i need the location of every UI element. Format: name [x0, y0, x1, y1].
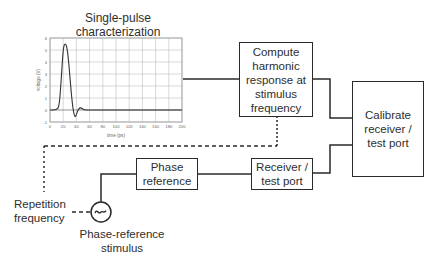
- receiver-to-calibrate-wire: [313, 145, 352, 173]
- pulse-chart: 020406080100120140160180200 -10123456 ti…: [36, 36, 186, 139]
- compute-line1: Compute: [246, 45, 306, 59]
- compute-harmonic-box: Compute harmonic response at stimulus fr…: [239, 42, 313, 117]
- chart-title: Single-pulse characterization: [52, 11, 184, 39]
- compute-line4: stimulus: [246, 87, 306, 101]
- y-axis-label: voltage (V): [36, 68, 41, 91]
- calibrate-line3: test port: [364, 136, 411, 150]
- svg-text:4: 4: [45, 60, 48, 65]
- svg-text:0: 0: [49, 124, 52, 129]
- phase-line2: reference: [143, 174, 192, 188]
- svg-text:140: 140: [139, 124, 147, 129]
- y-tick-labels: -10123456: [43, 36, 47, 125]
- receiver-line1: Receiver /: [256, 160, 308, 174]
- calibrate-line2: receiver /: [364, 122, 411, 136]
- stimulus-line1: Phase-reference: [72, 228, 172, 242]
- svg-text:60: 60: [87, 124, 92, 129]
- compute-line3: response at: [246, 73, 306, 87]
- svg-text:3: 3: [45, 72, 48, 77]
- svg-text:1: 1: [45, 96, 48, 101]
- ac-source-icon: [91, 202, 111, 222]
- repetition-line1: Repetition: [14, 198, 72, 212]
- compute-line2: harmonic: [246, 59, 306, 73]
- phase-reference-stimulus-label: Phase-reference stimulus: [72, 228, 172, 255]
- x-tick-labels: 020406080100120140160180200: [49, 124, 186, 129]
- compute-line5: frequency: [246, 101, 306, 115]
- receiver-test-port-box: Receiver / test port: [251, 158, 313, 190]
- calibrate-line1: Calibrate: [364, 108, 411, 122]
- svg-text:-1: -1: [43, 120, 47, 125]
- x-axis-label: time (ps): [107, 133, 125, 138]
- chart-title-line1: Single-pulse: [52, 11, 184, 25]
- receiver-line2: test port: [256, 174, 308, 188]
- compute-to-calibrate-wire: [313, 79, 352, 118]
- svg-text:200: 200: [179, 124, 187, 129]
- stimulus-line2: stimulus: [72, 242, 172, 256]
- svg-text:80: 80: [100, 124, 105, 129]
- svg-text:20: 20: [61, 124, 66, 129]
- phase-line1: Phase: [143, 160, 192, 174]
- source-to-phase-wire: [101, 174, 136, 202]
- calibrate-box: Calibrate receiver / test port: [352, 81, 424, 177]
- svg-text:0: 0: [45, 108, 48, 113]
- svg-text:160: 160: [152, 124, 160, 129]
- svg-text:2: 2: [45, 84, 48, 89]
- svg-text:40: 40: [74, 124, 79, 129]
- svg-text:180: 180: [165, 124, 173, 129]
- svg-text:6: 6: [45, 36, 48, 41]
- repetition-frequency-label: Repetition frequency: [14, 198, 72, 225]
- repetition-line2: frequency: [14, 212, 72, 226]
- svg-text:120: 120: [126, 124, 134, 129]
- svg-text:5: 5: [45, 48, 48, 53]
- svg-text:100: 100: [113, 124, 121, 129]
- phase-reference-box: Phase reference: [136, 158, 198, 190]
- chart-title-line2: characterization: [52, 25, 184, 39]
